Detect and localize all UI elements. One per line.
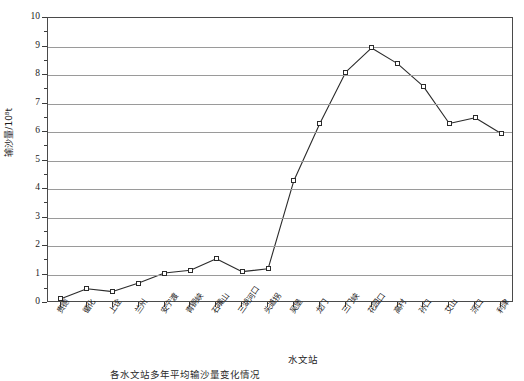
y-axis-minor-tick — [44, 31, 47, 32]
data-point-marker — [110, 289, 115, 294]
y-axis-tick-label: 10 — [20, 12, 40, 22]
gridline — [48, 246, 512, 247]
plot-area — [47, 17, 513, 302]
y-axis-tick — [42, 217, 47, 218]
y-axis-tick-label: 0 — [20, 297, 40, 307]
data-point-marker — [447, 121, 452, 126]
y-axis-tick-label: 5 — [20, 155, 40, 165]
data-point-marker — [421, 84, 426, 89]
data-point-marker — [214, 256, 219, 261]
data-point-marker — [162, 271, 167, 276]
y-axis-minor-tick — [44, 88, 47, 89]
y-axis-minor-tick — [44, 231, 47, 232]
y-axis-tick — [42, 17, 47, 18]
y-axis-minor-tick — [44, 259, 47, 260]
y-axis-tick-label: 1 — [20, 269, 40, 279]
y-axis-tick-label: 7 — [20, 98, 40, 108]
y-axis-tick-label: 2 — [20, 240, 40, 250]
y-axis-tick-label: 6 — [20, 126, 40, 136]
y-axis-tick — [42, 103, 47, 104]
data-point-marker — [369, 45, 374, 50]
data-point-marker — [395, 61, 400, 66]
y-axis-tick-label: 4 — [20, 183, 40, 193]
gridline — [48, 132, 512, 133]
y-axis-tick — [42, 46, 47, 47]
y-axis-minor-tick — [44, 117, 47, 118]
data-point-marker — [188, 268, 193, 273]
gridline — [48, 275, 512, 276]
gridline — [48, 161, 512, 162]
y-axis-tick — [42, 245, 47, 246]
data-point-marker — [240, 269, 245, 274]
y-axis-tick-label: 9 — [20, 41, 40, 51]
data-point-marker — [84, 286, 89, 291]
y-axis-minor-tick — [44, 174, 47, 175]
data-point-marker — [343, 70, 348, 75]
y-axis-tick — [42, 160, 47, 161]
y-axis-minor-tick — [44, 60, 47, 61]
figure-caption: 各水文站多年平均输沙量变化情况 — [110, 367, 260, 381]
data-point-marker — [317, 121, 322, 126]
y-axis-minor-tick — [44, 202, 47, 203]
y-axis-title: 输沙量/10⁸t — [2, 108, 15, 157]
data-point-marker — [499, 131, 504, 136]
gridline — [48, 47, 512, 48]
gridline — [48, 75, 512, 76]
y-axis-tick-label: 8 — [20, 69, 40, 79]
y-axis-tick — [42, 302, 47, 303]
gridline — [48, 218, 512, 219]
gridline — [48, 189, 512, 190]
y-axis-tick — [42, 131, 47, 132]
y-axis-tick — [42, 74, 47, 75]
data-point-marker — [266, 266, 271, 271]
y-axis-tick-label: 3 — [20, 212, 40, 222]
data-point-marker — [473, 115, 478, 120]
y-axis-minor-tick — [44, 288, 47, 289]
data-point-marker — [136, 281, 141, 286]
y-axis-minor-tick — [44, 145, 47, 146]
y-axis-tick — [42, 188, 47, 189]
gridline — [48, 104, 512, 105]
x-axis-title: 水文站 — [288, 352, 318, 366]
y-axis-tick — [42, 274, 47, 275]
data-point-marker — [291, 178, 296, 183]
